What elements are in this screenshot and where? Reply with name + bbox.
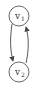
graph-canvas: v 1 v 2 [0,0,55,96]
node-v2-label: v [14,67,21,77]
node-v1-label: v [14,11,21,21]
node-v1: v 1 [9,6,29,26]
edge-v2-to-v1 [26,27,28,63]
node-v2-subscript: 2 [21,71,25,78]
node-v2: v 2 [9,62,29,82]
edge-v1-to-v2 [11,24,13,61]
node-v1-subscript: 1 [21,15,25,22]
